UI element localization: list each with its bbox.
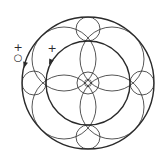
outer-circle: [22, 17, 154, 149]
arrow-outer-arrow-icon: [22, 62, 28, 69]
label-inner-plus: +: [47, 42, 56, 55]
inner-circle: [46, 41, 130, 125]
circle-pattern-diagram: +○+: [0, 0, 164, 160]
label-outer-charge: ○: [14, 52, 23, 63]
center-circle: [77, 72, 99, 94]
